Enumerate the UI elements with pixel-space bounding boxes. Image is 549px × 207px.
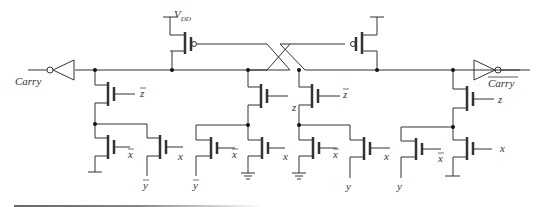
divider — [14, 205, 264, 207]
gate-label-zbar: z — [342, 88, 348, 100]
column-3 — [299, 70, 390, 178]
gate-label-x: x — [177, 150, 183, 162]
gate-label-z: z — [291, 101, 297, 113]
gate-label-xbar: x — [127, 148, 133, 160]
carry-out-label: Carry — [488, 77, 514, 89]
gate-label-xbar: x — [332, 148, 338, 160]
source-label-ybar: y — [192, 179, 198, 191]
column-1 — [88, 70, 183, 176]
ground-icon — [241, 173, 255, 179]
carry-in-label: Carry — [15, 75, 41, 87]
gate-label-xbar: x — [231, 148, 237, 160]
source-label-y: y — [396, 180, 402, 192]
column-2 — [196, 70, 288, 176]
source-label-ybar: y — [142, 179, 148, 191]
gate-label-x: x — [383, 150, 389, 162]
ground-icon — [292, 173, 306, 179]
circuit-diagram: VDD Carry Carry z z z z x x x x x x x x … — [0, 0, 549, 207]
column-4 — [401, 70, 494, 178]
vdd-label: VDD — [174, 8, 191, 23]
gate-label-xbar: x — [437, 152, 443, 164]
gate-label-z: z — [497, 93, 503, 105]
gate-label-x: x — [499, 142, 505, 154]
source-label-y: y — [345, 180, 351, 192]
gate-label-zbar: z — [139, 87, 145, 99]
gate-label-x: x — [282, 150, 288, 162]
